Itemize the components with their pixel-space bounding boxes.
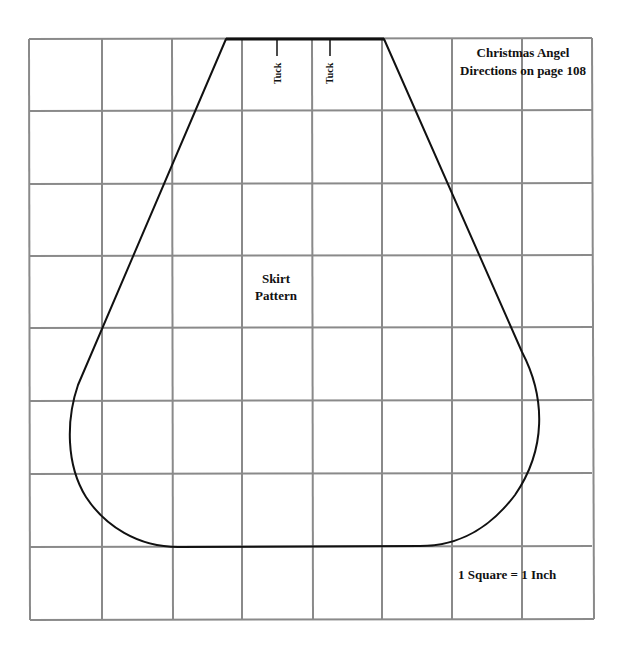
scale-note: 1 Square = 1 Inch [458,567,556,583]
grid-lines [29,38,594,620]
tuck-label-1: Tuck [272,63,283,84]
piece-label-line-2: Pattern [236,287,316,304]
pattern-grid-canvas [0,0,624,646]
piece-label: Skirt Pattern [236,270,316,304]
tuck-label-2: Tuck [324,63,335,84]
title-line-2: Directions on page 108 [448,62,598,80]
title-line-1: Christmas Angel [448,44,598,62]
pattern-title: Christmas Angel Directions on page 108 [448,44,598,80]
piece-label-line-1: Skirt [236,270,316,287]
